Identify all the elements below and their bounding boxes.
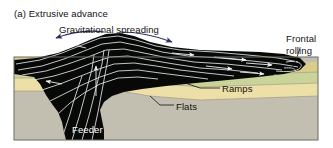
figure-extrusive-advance: (a) Extrusive advance Gravitational spre… — [0, 0, 333, 148]
label-ramps: Ramps — [222, 83, 253, 94]
figure-caption: (a) Extrusive advance — [14, 8, 108, 19]
label-flats: Flats — [176, 101, 197, 112]
label-frontal-rolling: Frontal rolling — [286, 33, 316, 56]
cross-section-diagram — [0, 0, 333, 148]
label-feeder: Feeder — [72, 124, 103, 135]
label-gravitational-spreading: Gravitational spreading — [59, 24, 159, 35]
